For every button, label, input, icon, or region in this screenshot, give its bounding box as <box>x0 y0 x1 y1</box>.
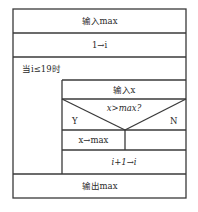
input-x-block: 输入x <box>62 85 186 95</box>
output-max-block: 输出max <box>13 181 186 191</box>
init-i-block: 1→i <box>13 40 186 50</box>
decision-condition: x>max? <box>62 103 186 113</box>
branch-yes-label: Y <box>72 116 78 126</box>
loop-condition-label: 当i≤19时 <box>22 64 61 74</box>
assign-max-block: x→max <box>62 135 125 145</box>
ns-flowchart: 输入max 1→i 当i≤19时 输入x x>max? Y N x→max i+… <box>0 0 198 212</box>
increment-block: i+1→i <box>62 157 186 167</box>
input-max-block: 输入max <box>13 16 186 26</box>
branch-no-label: N <box>170 116 177 126</box>
